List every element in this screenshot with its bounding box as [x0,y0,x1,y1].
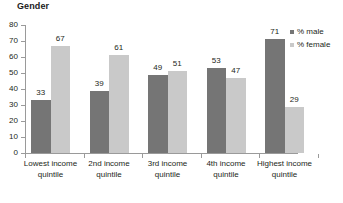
plot-area [25,25,297,153]
legend-item-male[interactable]: % male [290,26,330,37]
bar-male[interactable] [207,68,227,153]
chart-title: Gender [17,1,49,11]
bar-male[interactable] [31,100,51,153]
y-tick-label: 30 [2,101,18,109]
legend-label-male: % male [297,28,324,36]
legend-item-female[interactable]: % female [290,39,330,50]
bar-value-label: 61 [108,44,130,52]
x-tick-mark [84,154,85,158]
bar-male[interactable] [90,91,110,153]
bar-female[interactable] [285,107,305,153]
bar-value-label: 29 [283,96,305,104]
bar-male[interactable] [148,75,168,153]
x-tick-mark [142,154,143,158]
x-tick-mark [259,154,260,158]
x-axis-line [25,153,298,154]
x-tick-mark [318,154,319,158]
bar-female[interactable] [226,78,246,153]
y-tick-label: 80 [2,21,18,29]
gender-bar-chart: Gender 01020304050607080 336739614951534… [0,0,343,203]
y-tick-label: 0 [2,149,18,157]
y-tick-label: 70 [2,37,18,45]
category-label: Lowest income quintile [18,159,84,180]
category-label: 2nd income quintile [76,159,142,180]
bar-value-label: 39 [88,80,110,88]
chart-legend: % male % female [290,26,330,52]
bar-female[interactable] [168,71,188,153]
category-label: 3rd income quintile [135,159,201,180]
bar-male[interactable] [265,39,285,153]
legend-swatch-male-icon [290,30,294,34]
y-tick-label: 40 [2,85,18,93]
legend-label-female: % female [297,41,330,49]
category-label: 4th income quintile [193,159,259,180]
y-tick-label: 10 [2,133,18,141]
legend-swatch-female-icon [290,43,294,47]
x-tick-mark [201,154,202,158]
bar-value-label: 51 [166,60,188,68]
bar-female[interactable] [51,46,71,153]
bar-value-label: 53 [205,57,227,65]
category-label: Highest income quintile [252,159,318,180]
bar-female[interactable] [109,55,129,153]
bar-value-label: 67 [49,35,71,43]
y-tick-label: 60 [2,53,18,61]
bar-value-label: 33 [30,89,52,97]
y-tick-label: 20 [2,117,18,125]
bar-value-label: 47 [225,67,247,75]
bar-value-label: 71 [264,28,286,36]
y-tick-label: 50 [2,69,18,77]
x-tick-mark [25,154,26,158]
